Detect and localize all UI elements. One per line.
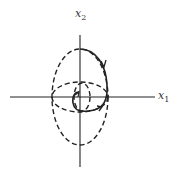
axes: [10, 35, 155, 167]
phase-plane-diagram: x2 x1: [0, 0, 182, 178]
x1-axis-label: x1: [158, 89, 169, 104]
x2-axis-label: x2: [75, 7, 86, 22]
